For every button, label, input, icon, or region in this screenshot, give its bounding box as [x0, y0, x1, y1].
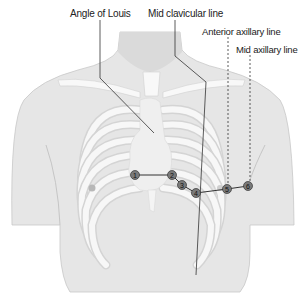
svg-text:1: 1 — [133, 172, 137, 179]
svg-text:3: 3 — [180, 182, 184, 189]
label-angle-of-louis: Angle of Louis — [70, 8, 131, 19]
svg-text:2: 2 — [170, 172, 174, 179]
electrode-v1: 1 — [131, 171, 140, 180]
electrode-v3: 3 — [178, 181, 187, 190]
electrode-v5: 5 — [223, 185, 232, 194]
svg-text:6: 6 — [246, 183, 250, 190]
label-mid-axillary-line: Mid axillary line — [236, 44, 298, 55]
nipple-right — [89, 185, 96, 192]
svg-text:5: 5 — [225, 186, 229, 193]
electrode-v2: 2 — [168, 171, 177, 180]
svg-text:4: 4 — [194, 190, 198, 197]
electrode-v6: 6 — [244, 182, 253, 191]
electrode-v4: 4 — [192, 189, 201, 198]
label-mid-clavicular-line: Mid clavicular line — [148, 8, 223, 19]
label-anterior-axillary-line: Anterior axillary line — [202, 26, 281, 37]
